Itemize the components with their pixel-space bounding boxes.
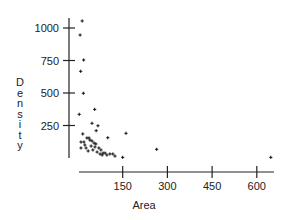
data-point: [93, 108, 96, 111]
data-point: [79, 140, 82, 143]
y-tick-label: 500: [41, 87, 59, 99]
data-point: [99, 148, 102, 151]
y-tick-label: 250: [41, 120, 59, 132]
data-point: [90, 144, 93, 147]
data-point: [87, 149, 90, 152]
data-point: [95, 150, 98, 153]
svg-text:y: y: [17, 139, 23, 151]
data-point: [83, 143, 86, 146]
data-points: [78, 19, 273, 159]
data-point: [106, 136, 109, 139]
data-point: [78, 113, 81, 116]
scatter-plot: 2505007501000 150300450600 Density Area: [0, 0, 288, 220]
y-axis-title: Density: [16, 76, 24, 151]
data-point: [121, 156, 124, 159]
data-point: [96, 124, 99, 127]
x-tick-label: 300: [158, 180, 176, 192]
data-point: [124, 132, 127, 135]
data-point: [155, 148, 158, 151]
data-point: [81, 132, 84, 135]
data-point: [78, 33, 81, 36]
data-point: [82, 92, 85, 95]
data-point: [97, 146, 100, 149]
y-tick-label: 750: [41, 55, 59, 67]
data-point: [93, 145, 96, 148]
data-point: [95, 129, 98, 132]
data-point: [111, 152, 114, 155]
data-point: [269, 156, 272, 159]
x-tick-label: 150: [114, 180, 132, 192]
x-axis-ticks: 150300450600: [114, 166, 266, 192]
x-axis-title: Area: [132, 199, 156, 211]
data-point: [91, 148, 94, 151]
data-point: [90, 122, 93, 125]
data-point: [82, 58, 85, 61]
data-point: [79, 70, 82, 73]
data-point: [84, 146, 87, 149]
data-point: [81, 19, 84, 22]
data-point: [113, 154, 116, 157]
data-point: [108, 152, 111, 155]
y-tick-label: 1000: [35, 22, 59, 34]
data-point: [79, 146, 82, 149]
data-point: [105, 153, 108, 156]
x-tick-label: 450: [203, 180, 221, 192]
data-point: [104, 151, 107, 154]
x-tick-label: 600: [248, 180, 266, 192]
data-point: [82, 140, 85, 143]
